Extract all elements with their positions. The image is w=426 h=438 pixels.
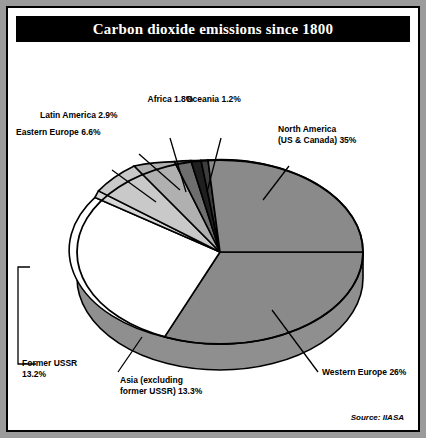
pie-chart: Africa 1.8% Oceania 1.2% Latin America 2… (8, 42, 418, 430)
label-asia-line1: Asia (excluding (120, 375, 183, 386)
chart-title-bar: Carbon dioxide emissions since 1800 (16, 16, 410, 42)
label-former-ussr-line2: 13.2% (22, 369, 46, 380)
chart-panel: Carbon dioxide emissions since 1800 (6, 6, 420, 432)
label-eastern-europe: Eastern Europe 6.6% (16, 127, 101, 138)
page-title: Carbon dioxide emissions since 1800 (16, 16, 410, 42)
label-asia-line2: former USSR) 13.3% (120, 386, 202, 397)
label-north-america-line2: (US & Canada) 35% (278, 135, 356, 146)
source-note: Source: IIASA (351, 413, 404, 422)
leader-line-former-ussr (18, 267, 36, 364)
label-former-ussr-line1: Former USSR (22, 358, 77, 369)
pie-slice-north-america-upper (208, 160, 363, 252)
label-western-europe: Western Europe 26% (322, 367, 406, 378)
label-oceania: Oceania 1.2% (186, 94, 241, 105)
label-north-america-line1: North America (278, 124, 336, 135)
label-latin-america: Latin America 2.9% (40, 110, 118, 121)
